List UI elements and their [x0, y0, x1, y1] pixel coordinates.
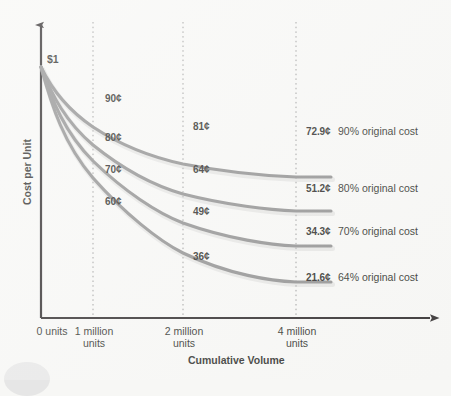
curve-80-percent	[41, 67, 331, 211]
end-label-72-9c: 72.9¢	[306, 126, 331, 137]
x-axis-title: Cumulative Volume	[188, 355, 285, 367]
point-label-36c: 36¢	[193, 251, 209, 262]
end-label-51-2c: 51.2¢	[306, 183, 331, 194]
curve-90-percent	[41, 67, 331, 177]
x-tick-4-million-line1: 4 million	[278, 325, 317, 337]
point-label-64c: 64¢	[193, 164, 209, 175]
curve-70-percent	[41, 67, 331, 246]
origin-value-label: $1	[47, 54, 59, 66]
x-tick-2-million: 2 million units	[153, 326, 215, 350]
end-label-21-6c: 21.6¢	[306, 272, 331, 283]
point-label-90c: 90¢	[105, 93, 121, 104]
legend-item-64-percent: 64% original cost	[338, 272, 418, 284]
point-label-49c: 49¢	[193, 206, 209, 217]
x-tick-2-million-line2: units	[153, 338, 215, 350]
x-tick-1-million-line2: units	[63, 338, 125, 350]
x-tick-4-million-line2: units	[266, 338, 328, 350]
point-label-70c: 70¢	[105, 164, 121, 175]
legend-item-70-percent: 70% original cost	[338, 226, 418, 238]
legend-item-80-percent: 80% original cost	[338, 183, 418, 195]
x-tick-4-million: 4 million units	[266, 326, 328, 350]
point-label-60c: 60¢	[105, 196, 121, 207]
x-tick-1-million: 1 million units	[63, 326, 125, 350]
y-axis-title: Cost per Unit	[22, 139, 34, 205]
page-corner-smudge	[4, 362, 50, 396]
x-tick-2-million-line1: 2 million	[165, 325, 204, 337]
point-label-81c: 81¢	[193, 121, 209, 132]
point-label-80c: 80¢	[105, 132, 121, 143]
legend-item-90-percent: 90% original cost	[338, 126, 418, 138]
x-tick-1-million-line1: 1 million	[75, 325, 114, 337]
end-label-34-3c: 34.3¢	[306, 226, 331, 237]
